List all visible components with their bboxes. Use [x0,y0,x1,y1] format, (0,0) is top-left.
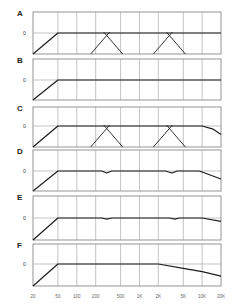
response-curve-main [33,171,221,191]
zero-level-label: 0 [23,123,26,129]
zero-level-label: 0 [23,77,26,83]
x-tick-label: 100 [73,294,81,299]
frequency-response-chart: A0B0C0D0E0F020501002005001K2K5K10K20K [0,0,233,305]
zero-level-label: 0 [23,261,26,267]
panel-frame [33,244,221,286]
zero-level-label: 0 [23,168,26,174]
panel-label: F [17,241,22,250]
response-curve-crossover-1-hp [104,125,123,147]
x-tick-label: 500 [117,294,125,299]
x-tick-label: 2K [155,294,162,299]
zero-level-label: 0 [23,215,26,221]
panel-label: B [17,56,23,65]
panel-b: B0 [17,56,221,100]
panel-e: E0 [17,193,221,240]
x-tick-label: 50 [55,294,61,299]
panel-c: C0 [17,104,221,147]
panel-label: E [17,193,23,202]
response-curve-main [33,80,221,100]
x-axis-tick-labels: 20501002005001K2K5K10K20K [30,294,226,299]
panel-label: D [17,147,23,156]
response-curve-crossover-1-hp [104,32,123,54]
panel-a: A0 [17,9,221,54]
panel-f: F0 [17,241,221,286]
x-tick-label: 5K [180,294,187,299]
response-curve-main [33,264,221,286]
zero-level-label: 0 [23,30,26,36]
response-curve-crossover-2-hp [166,32,185,54]
response-curve-main [33,218,221,240]
x-tick-label: 20 [30,294,36,299]
panel-frame [33,107,221,147]
panel-label: A [17,9,23,18]
response-curve-crossover-2-hp [166,125,185,147]
x-tick-label: 20K [217,294,226,299]
x-tick-label: 1K [137,294,144,299]
panel-d: D0 [17,147,221,191]
response-curve-main [33,33,221,54]
response-curve-main [33,126,221,147]
x-tick-label: 200 [92,294,100,299]
panel-label: C [17,104,23,113]
x-tick-label: 10K [198,294,207,299]
